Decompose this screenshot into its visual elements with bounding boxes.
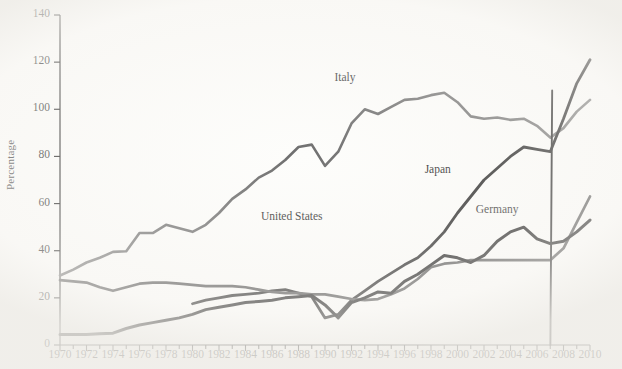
series-label-germany: Germany bbox=[476, 203, 519, 215]
x-tick-label: 2010 bbox=[573, 348, 607, 360]
line-chart-canvas bbox=[0, 0, 622, 369]
y-tick-label: 60 bbox=[16, 196, 50, 208]
chart-series bbox=[60, 60, 590, 335]
y-tick-label: 20 bbox=[16, 290, 50, 302]
y-tick-label: 100 bbox=[16, 101, 50, 113]
vertical-artifact-line bbox=[550, 90, 552, 345]
series-line-italy bbox=[60, 93, 590, 276]
series-label-italy: Italy bbox=[334, 71, 355, 83]
chart-figure: 020406080100120140 197019721974197619781… bbox=[0, 0, 622, 369]
y-axis-title: Percentage bbox=[4, 100, 16, 190]
chart-axes bbox=[54, 15, 590, 351]
y-tick-label: 40 bbox=[16, 243, 50, 255]
chart-annotations bbox=[550, 90, 552, 345]
y-tick-label: 80 bbox=[16, 148, 50, 160]
series-line-japan bbox=[193, 60, 591, 318]
series-label-japan: Japan bbox=[425, 163, 451, 175]
series-label-united-states: United States bbox=[261, 210, 323, 222]
y-tick-label: 120 bbox=[16, 54, 50, 66]
y-tick-label: 140 bbox=[16, 7, 50, 19]
